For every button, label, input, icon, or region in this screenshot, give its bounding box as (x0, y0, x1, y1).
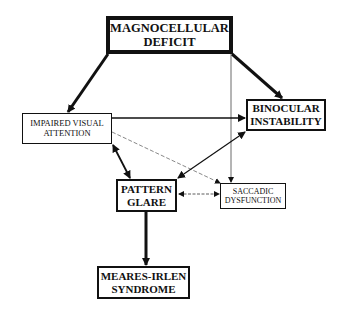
node-label-line1: SACCADIC (225, 187, 281, 196)
node-label-line2: SYNDROME (101, 283, 187, 296)
node-label-line1: MEARES-IRLEN (101, 270, 187, 283)
node-label-line1: BINOCULAR (250, 102, 321, 115)
node-label-line2: GLARE (121, 196, 172, 209)
node-saccadic-dysfunction: SACCADIC DYSFUNCTION (220, 183, 286, 209)
node-label-line2: DEFICIT (110, 35, 229, 49)
node-pattern-glare: PATTERN GLARE (116, 179, 177, 212)
node-label-line2: DYSFUNCTION (225, 196, 281, 205)
edge-magno-binocular (232, 54, 282, 98)
node-label-line2: INSTABILITY (250, 115, 321, 128)
node-label-line1: MAGNOCELLULAR (110, 21, 229, 35)
node-label-line1: PATTERN (121, 183, 172, 196)
node-binocular-instability: BINOCULAR INSTABILITY (246, 99, 326, 131)
node-meares-irlen-syndrome: MEARES-IRLEN SYNDROME (97, 266, 190, 299)
edge-impaired-pattern (113, 145, 130, 178)
edge-binocular-pattern (178, 132, 245, 178)
node-impaired-visual-attention: IMPAIRED VISUAL ATTENTION (22, 113, 112, 144)
node-label-line2: ATTENTION (30, 129, 103, 139)
edge-magno-impaired (68, 54, 108, 112)
node-magnocellular-deficit: MAGNOCELLULAR DEFICIT (106, 16, 233, 54)
